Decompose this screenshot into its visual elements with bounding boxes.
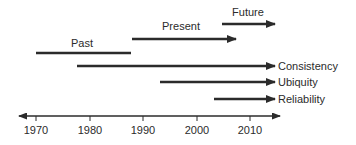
property-ubiquity: Ubiquity [160,76,318,88]
era-future: Future [222,6,275,24]
time-axis: 1970 1980 1990 2000 2010 [19,116,280,136]
tick-label-1970: 1970 [24,124,48,136]
consistency-label: Consistency [278,60,338,72]
era-past: Past [36,37,131,53]
past-label: Past [71,37,93,49]
tick-label-2010: 2010 [238,124,262,136]
present-label: Present [162,20,200,32]
tick-label-1990: 1990 [131,124,155,136]
ubiquity-label: Ubiquity [278,76,318,88]
future-label: Future [232,6,264,18]
era-present: Present [132,20,236,39]
reliability-label: Reliability [278,93,326,105]
property-consistency: Consistency [77,60,338,72]
tick-label-2000: 2000 [185,124,209,136]
property-reliability: Reliability [214,93,326,105]
timeline-diagram: Past Present Future Consistency Ubiquity… [0,0,356,145]
tick-label-1980: 1980 [78,124,102,136]
